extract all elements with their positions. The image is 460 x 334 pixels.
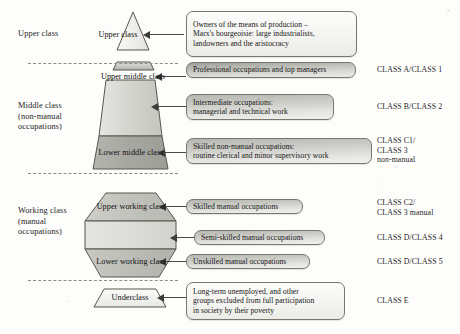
callout-intermediate[interactable]: Intermediate occupations: managerial and… xyxy=(186,94,334,120)
callout-unskilled-manual[interactable]: Unskilled manual occupations xyxy=(186,254,310,269)
arrow-to-semi-skilled xyxy=(177,237,194,238)
shape-label-underclass: Underclass xyxy=(80,293,180,303)
shape-label-upper-middle-class: Upper middle class xyxy=(83,72,183,82)
shape-label-lower-middle-class: Lower middle class xyxy=(81,148,181,158)
shape-label-lower-working-class: Lower working class xyxy=(81,257,181,267)
callout-semi-skilled-manual[interactable]: Semi-skilled manual occupations xyxy=(194,230,325,245)
diagram-canvas: Upper class Middle class (non-manual occ… xyxy=(0,0,460,334)
shape-label-upper-working-class: Upper working class xyxy=(81,202,181,212)
callout-professional[interactable]: Professional occupations and top manager… xyxy=(186,62,356,78)
shape-label-upper-class: Upper class xyxy=(68,30,168,40)
divider-working-under xyxy=(28,280,178,281)
divider-upper-middle xyxy=(28,63,178,64)
callout-skilled-manual[interactable]: Skilled manual occupations xyxy=(186,199,303,214)
arrow-to-middle-class xyxy=(158,106,186,107)
divider-middle-working xyxy=(28,173,178,174)
callout-skilled-non-manual[interactable]: Skilled non-manual occupations: routine … xyxy=(186,138,372,164)
callout-underclass-desc[interactable]: Long-term unemployed, and other groups e… xyxy=(186,282,345,320)
callout-owners[interactable]: Owners of the means of production – Marx… xyxy=(186,11,357,57)
